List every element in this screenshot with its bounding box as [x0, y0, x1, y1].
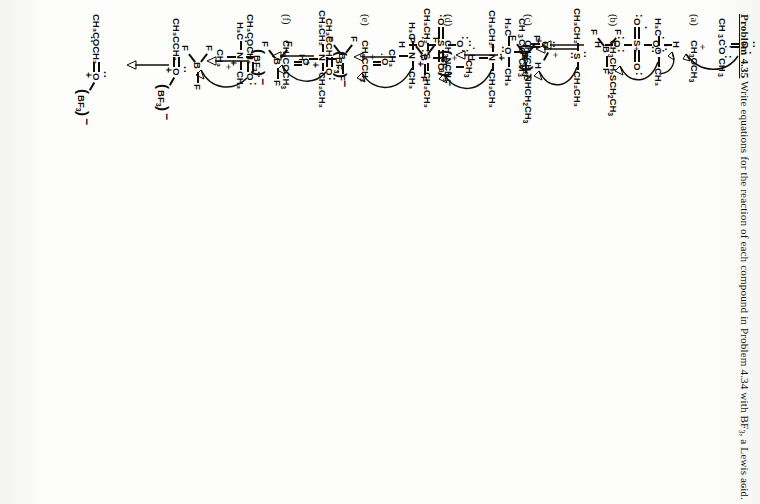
section-c-bond-left — [492, 44, 494, 52]
carryover-anion-so-l-a — [442, 27, 444, 39]
section-a-tag: (a) — [689, 14, 700, 26]
section-b-formula: CH3CH2SCH2CH3 — [607, 40, 619, 116]
section-f-prod-double-b — [93, 62, 95, 72]
section-f-o-lp-top: ·· — [257, 71, 261, 78]
section-e-o-lp-top: ·· — [336, 66, 340, 73]
section-e-counterion: BF3 — [155, 90, 167, 107]
section-d-tag: (d) — [443, 14, 454, 26]
section-a-period: . — [471, 47, 482, 50]
section-f-prod-ester-o-lp: ·· — [90, 36, 94, 43]
section-b-bf3-f-lower: F — [508, 35, 519, 41]
section-e-reactant-left: CH₃CCH₃ — [324, 18, 335, 61]
page-sheet: Problem 4.35 Write equations for the rea… — [0, 0, 760, 504]
problem-statement-tail: , a Lewis acid. — [739, 434, 751, 500]
carryover-acid-ol-lp-t: · — [644, 26, 648, 30]
section-e-o-lp-right: : — [331, 77, 335, 81]
section-e-paren-close: ) — [155, 106, 172, 111]
section-f-counterion-charge: − — [80, 118, 94, 125]
carryover-acid-ob-lp-r: : — [620, 49, 624, 53]
carryover-carbonyl-lp-right: : — [747, 51, 751, 55]
section-b-s-lp-top: ·· — [583, 51, 587, 58]
section-d-prod-bond-below — [227, 56, 236, 58]
section-f-tag: (f) — [281, 14, 292, 25]
section-f-ester-o-lp: ·· — [244, 36, 248, 43]
carryover-ester-left-sub: 3 — [717, 34, 724, 38]
section-e-bf3-bond-right — [277, 68, 279, 79]
carryover-anion-s-bond-bot — [428, 44, 436, 46]
section-e-prod-double-b — [173, 57, 175, 67]
carryover-acid-h-top: H — [671, 41, 682, 48]
carryover-ester-left: CH — [717, 18, 728, 32]
carryover-acid-so-l-b — [634, 27, 636, 39]
section-b-prod-bond-right — [427, 63, 429, 71]
section-e-bf3-f-lower: F — [260, 41, 271, 47]
section-d-formula: CH3NCH3 — [442, 40, 454, 82]
scanned-page: Problem 4.35 Write equations for the rea… — [0, 0, 760, 504]
section-a-bf3-f-lower: F — [589, 29, 600, 35]
section-f-paren-open: ( — [75, 89, 92, 94]
section-d-formula-branch: CH3 — [463, 60, 475, 77]
section-b-plus: + — [550, 52, 561, 58]
section-f-bf3-f-right: F — [192, 84, 203, 90]
section-f-bf3-f-lower: F — [180, 45, 191, 51]
section-d-bond-below — [399, 55, 408, 57]
section-c-counterion-charge: − — [338, 80, 352, 87]
scan-speck — [742, 486, 744, 488]
section-c-reactant-left: CH₃CH₂ — [487, 10, 498, 46]
section-f-paren-close: ) — [75, 111, 92, 116]
section-a-product-right: CH₃ — [503, 68, 514, 86]
section-a-reactant-left: H₃C — [653, 18, 664, 36]
section-c-n-lp: ·· — [499, 53, 503, 60]
section-a-curved-arrow — [614, 58, 660, 94]
section-f-reaction-arrow — [127, 64, 169, 74]
section-e-paren-open: ( — [155, 84, 172, 89]
carryover-carbonyl-lp-top: ·· — [752, 41, 756, 48]
section-b-reactant-left: CH₃CH₂ — [572, 8, 583, 44]
section-c-bond-h — [479, 57, 488, 59]
section-b-s-lp-bottom: ·· — [570, 52, 574, 59]
problem-statement: Write equations for the reaction of each… — [739, 81, 751, 429]
section-f-curved-arrow — [195, 62, 249, 96]
section-a-bf3-f-upper: F — [613, 29, 624, 35]
section-f-o-lp-right: : — [252, 82, 256, 86]
section-e-formula: CH3CCH3 — [359, 40, 371, 82]
section-a-formula: CH3OCH3 — [688, 40, 700, 82]
section-e-formula-carbonyl-o: O — [380, 58, 391, 65]
problem-heading: Problem 4.35 Write equations for the rea… — [737, 14, 751, 496]
section-f-formula: CH3COCH3 — [280, 40, 292, 89]
section-e-tag: (e) — [360, 14, 371, 26]
section-f-product-charge: + — [83, 72, 94, 78]
section-c-bf3-f-right: F — [419, 76, 430, 82]
section-a-product-left: H₃C — [503, 18, 514, 36]
section-e-prod-o-lp: ·· — [183, 66, 187, 73]
section-f-bf3-center: B — [192, 62, 203, 69]
carryover-acid-o-left: O — [632, 18, 643, 25]
section-b-bond-left — [577, 43, 579, 51]
section-b-curved-arrow — [533, 63, 579, 99]
section-d-reactant-left: H₃C — [407, 22, 418, 40]
section-f-prod-o-lp: ·· — [103, 71, 107, 78]
section-c-bf3-f-upper: F — [431, 37, 442, 43]
section-c-formula: CH3CH2NHCH2CH3 — [522, 40, 534, 123]
section-a-o-lp-top: ·· — [664, 44, 668, 51]
section-f-formula-carbonyl-o: O — [301, 58, 312, 65]
section-a-o-lp-bottom: ·· — [651, 46, 655, 53]
section-a-plus: + — [631, 46, 642, 52]
section-c-tag: (c) — [523, 14, 534, 26]
section-f-bf3-bond-right — [197, 72, 199, 83]
section-d-n-lp: ·· — [419, 51, 423, 58]
section-c-bf3-bond-right — [424, 64, 426, 75]
section-b-tag: (b) — [608, 14, 619, 26]
section-d-bf3-center: B — [337, 53, 348, 60]
section-a-prod-bond-right — [508, 57, 510, 67]
section-e-product-left: CH₃CCH₃ — [171, 18, 182, 61]
section-e-counterion-charge: − — [160, 113, 174, 120]
section-f-bf3-f-upper: F — [204, 45, 215, 51]
section-d-bond-left — [412, 41, 414, 50]
section-f-counterion: BF3 — [75, 95, 87, 112]
